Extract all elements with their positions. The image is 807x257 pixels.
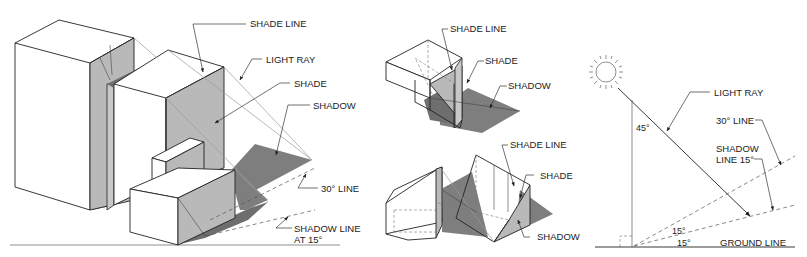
label-light-ray: LIGHT RAY bbox=[266, 54, 316, 65]
label-shade-line: SHADE LINE bbox=[250, 18, 307, 29]
label-bottom-shadow: SHADOW bbox=[537, 231, 580, 242]
label-angle-45: 45° bbox=[636, 123, 650, 133]
label-thirty-line: 30° LINE bbox=[321, 183, 359, 194]
label-shadow-line-1: SHADOW LINE bbox=[294, 223, 361, 234]
left-block-body bbox=[386, 167, 442, 234]
label-ground-line: GROUND LINE bbox=[720, 237, 786, 248]
label-top-shadow: SHADOW bbox=[508, 80, 551, 91]
overhang-shade-strip bbox=[455, 58, 462, 128]
left-block-shade bbox=[436, 167, 442, 238]
leader-right-shadow-line bbox=[754, 159, 773, 210]
prism-inner-shadow bbox=[442, 172, 488, 237]
right-angle-marker bbox=[620, 236, 632, 247]
leader-right-light-ray bbox=[667, 92, 710, 131]
label-right-shadow-line-2: LINE 15° bbox=[716, 154, 754, 165]
label-shade: SHADE bbox=[294, 78, 327, 89]
leader-top-shade bbox=[467, 61, 484, 83]
label-angle-15-lower: 15° bbox=[677, 238, 691, 248]
label-shadow-line-2: AT 15° bbox=[294, 234, 322, 245]
label-right-light-ray: LIGHT RAY bbox=[714, 87, 764, 98]
label-angle-15-upper: 15° bbox=[672, 226, 686, 236]
low-block-front bbox=[130, 189, 178, 245]
label-bottom-shade-line: SHADE LINE bbox=[510, 139, 567, 150]
slot-shade bbox=[107, 84, 114, 210]
label-right-thirty-line: 30° LINE bbox=[716, 115, 754, 126]
label-top-shade-line: SHADE LINE bbox=[450, 23, 507, 34]
label-bottom-shade: SHADE bbox=[540, 170, 573, 181]
label-shadow: SHADOW bbox=[313, 100, 356, 111]
leader-shade bbox=[215, 83, 290, 123]
light-ray-1 bbox=[134, 38, 157, 58]
leader-right-thirty-line bbox=[755, 120, 781, 165]
shade-shadow-diagram: SHADE LINE LIGHT RAY SHADE SHADOW 30° LI… bbox=[0, 0, 807, 257]
leader-thirty-line bbox=[298, 174, 318, 188]
right-panel-angle-construction: LIGHT RAY 30° LINE SHADOW LINE 15° 45° 1… bbox=[589, 55, 795, 248]
left-block-base bbox=[386, 234, 436, 240]
middle-bottom-prism-group: SHADE LINE SHADE SHADOW bbox=[386, 139, 580, 242]
label-top-shade: SHADE bbox=[485, 55, 518, 66]
sun-icon bbox=[589, 55, 623, 89]
middle-top-overhang-group: SHADE LINE SHADE SHADOW bbox=[386, 23, 551, 133]
left-panel-building-group: SHADE LINE LIGHT RAY SHADE SHADOW 30° LI… bbox=[10, 18, 361, 245]
leader-light-ray bbox=[240, 59, 262, 80]
leader-shadow-line bbox=[276, 217, 292, 228]
label-right-shadow-line-1: SHADOW bbox=[716, 143, 759, 154]
leader-shadow bbox=[276, 105, 310, 155]
